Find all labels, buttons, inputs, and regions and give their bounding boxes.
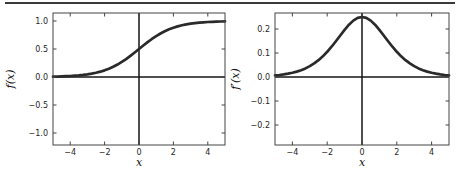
plots-svg: −4−20241.00.50.0−0.5−1.0xf(x) −4−20240.2… (0, 0, 460, 173)
y-tick-label: 0.0 (257, 73, 270, 82)
sigmoid-derivative-plot: −4−20240.20.10.0−0.1−0.2xf′(x) (229, 13, 449, 169)
x-tick-label: −4 (287, 148, 299, 157)
y-tick-label: 1.0 (35, 17, 48, 26)
x-tick-label: 4 (205, 148, 210, 157)
x-tick-label: 2 (394, 148, 399, 157)
x-tick-label: −2 (321, 148, 333, 157)
x-tick-label: −2 (99, 148, 111, 157)
y-tick-label: 0.5 (35, 45, 48, 54)
y-tick-label: −0.2 (251, 121, 270, 130)
y-axis-label: f(x) (4, 70, 17, 90)
y-tick-label: 0.2 (257, 25, 270, 34)
y-tick-label: 0.1 (257, 49, 270, 58)
y-tick-label: 0.0 (35, 73, 48, 82)
x-axis-label: x (136, 156, 143, 169)
figure-canvas: −4−20241.00.50.0−0.5−1.0xf(x) −4−20240.2… (0, 0, 460, 173)
sigmoid-plot: −4−20241.00.50.0−0.5−1.0xf(x) (4, 13, 225, 169)
x-tick-label: 4 (429, 148, 434, 157)
y-axis-label: f′(x) (229, 68, 242, 90)
y-tick-label: −1.0 (29, 129, 48, 138)
x-axis-label: x (359, 156, 366, 169)
x-tick-label: −4 (64, 148, 76, 157)
y-tick-label: −0.1 (251, 97, 270, 106)
y-tick-label: −0.5 (29, 101, 48, 110)
x-tick-label: 2 (171, 148, 176, 157)
